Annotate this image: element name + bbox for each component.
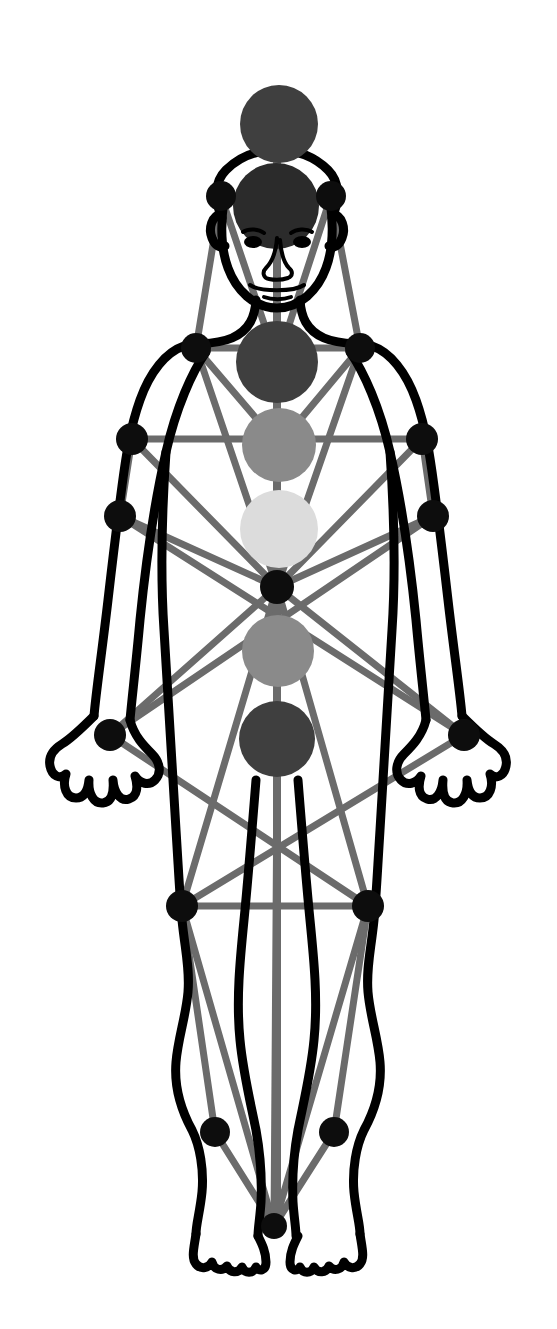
eye-left-icon xyxy=(244,236,262,248)
node-forearm-left xyxy=(104,500,136,532)
root-circle xyxy=(239,701,315,777)
node-center xyxy=(260,570,294,604)
node-elbow-left xyxy=(116,423,148,455)
node-knee-right xyxy=(352,890,384,922)
node-temple-left xyxy=(206,181,236,211)
conn-knee-right-to-ankle-right xyxy=(334,906,368,1132)
throat-chest-circle xyxy=(236,321,318,403)
node-shoulder-right xyxy=(345,333,375,363)
eye-right-icon xyxy=(293,236,311,248)
head-circle xyxy=(233,163,319,249)
heart-circle xyxy=(242,408,316,482)
node-hand-left xyxy=(94,719,126,751)
foot-left-outline xyxy=(193,1234,266,1272)
crown-circle xyxy=(240,85,318,163)
node-shoulder-left xyxy=(181,333,211,363)
leg-left-inner-outline xyxy=(238,780,261,1236)
foot-right-outline xyxy=(290,1234,363,1272)
node-elbow-right xyxy=(406,423,438,455)
node-ankle-right xyxy=(319,1117,349,1147)
node-hand-right xyxy=(448,719,480,751)
center-circles-group xyxy=(233,85,319,777)
diagram-canvas: Tree of Life overlaid on human body xyxy=(0,0,557,1329)
solar-plexus-circle xyxy=(240,490,318,568)
sacral-circle xyxy=(242,615,314,687)
node-temple-right xyxy=(316,181,346,211)
node-forearm-right xyxy=(417,500,449,532)
node-ankle-left xyxy=(200,1117,230,1147)
body-tree-of-life-illustration xyxy=(0,0,557,1329)
leg-left-outer-outline xyxy=(162,452,203,1234)
node-feet xyxy=(261,1213,287,1239)
chin-crease xyxy=(264,297,291,299)
conn-ankle-right-to-feet xyxy=(274,1132,334,1226)
node-knee-left xyxy=(166,890,198,922)
